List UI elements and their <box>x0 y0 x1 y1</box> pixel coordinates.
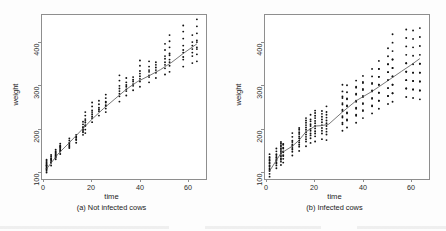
fit-line <box>47 44 197 169</box>
panel-a-ytick-300: 300 <box>32 87 41 105</box>
panel-a: weight 400 300 200 100 0 20 40 60 time (… <box>0 0 223 231</box>
panel-b: weight 400 300 200 100 0 20 40 60 time (… <box>223 0 446 231</box>
panel-b-canvas <box>265 15 429 179</box>
panel-b-x-axis-title: time <box>223 192 446 201</box>
panel-a-ytick-200: 200 <box>32 131 41 149</box>
panel-b-xtick-60: 60 <box>401 183 421 192</box>
panel-b-tick-x-60 <box>411 179 412 182</box>
panel-b-plot-area <box>264 14 430 180</box>
panel-b-y-axis-title: weight <box>234 75 243 115</box>
figure-two-panel-scatter: weight 400 300 200 100 0 20 40 60 time (… <box>0 0 446 231</box>
panel-a-tick-x-0 <box>43 179 44 182</box>
panel-b-tick-x-40 <box>363 179 364 182</box>
panel-a-x-axis-title: time <box>0 192 223 201</box>
panel-a-caption: (a) Not infected cows <box>0 203 223 212</box>
panel-b-xtick-40: 40 <box>353 183 373 192</box>
panel-b-xtick-20: 20 <box>304 183 324 192</box>
panel-a-xtick-60: 60 <box>178 183 198 192</box>
panel-b-caption: (b) Infected cows <box>223 203 446 212</box>
panel-a-tick-x-60 <box>188 179 189 182</box>
scatter-points <box>46 18 198 173</box>
panel-b-tick-x-0 <box>266 179 267 182</box>
panel-a-plot-area <box>41 14 207 180</box>
panel-b-ytick-400: 400 <box>255 44 264 62</box>
panel-b-xtick-0: 0 <box>256 183 276 192</box>
panel-b-ytick-300: 300 <box>255 87 264 105</box>
scan-artifact-strip <box>0 226 446 229</box>
panel-a-y-axis-title: weight <box>11 75 20 115</box>
panel-a-xtick-20: 20 <box>81 183 101 192</box>
panel-b-tick-x-20 <box>314 179 315 182</box>
panel-a-tick-x-40 <box>140 179 141 182</box>
panel-a-xtick-40: 40 <box>130 183 150 192</box>
panel-b-ytick-200: 200 <box>255 131 264 149</box>
panel-a-ytick-400: 400 <box>32 44 41 62</box>
panel-a-tick-x-20 <box>91 179 92 182</box>
panel-a-xtick-0: 0 <box>33 183 53 192</box>
scatter-points <box>269 27 421 177</box>
fit-line <box>270 59 420 171</box>
panel-a-canvas <box>42 15 206 179</box>
